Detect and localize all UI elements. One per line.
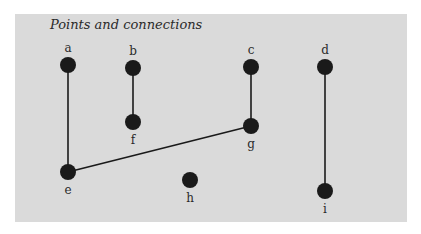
node-label-c: c: [248, 43, 255, 57]
nodes-group: abcdefghi: [60, 41, 333, 216]
node-label-f: f: [131, 133, 137, 147]
node-label-d: d: [321, 43, 329, 57]
node-e: [60, 164, 76, 180]
node-d: [317, 59, 333, 75]
node-i: [317, 183, 333, 199]
node-label-g: g: [247, 137, 255, 151]
node-label-a: a: [64, 41, 71, 55]
node-label-b: b: [129, 44, 137, 58]
node-g: [243, 118, 259, 134]
edges-group: [68, 65, 325, 191]
node-label-e: e: [64, 183, 71, 197]
graph-canvas: abcdefghi: [0, 0, 421, 234]
node-a: [60, 57, 76, 73]
node-label-h: h: [186, 191, 194, 205]
node-h: [182, 172, 198, 188]
node-f: [125, 114, 141, 130]
edge-e-g: [68, 126, 251, 172]
node-b: [125, 60, 141, 76]
node-c: [243, 59, 259, 75]
node-label-i: i: [323, 202, 327, 216]
